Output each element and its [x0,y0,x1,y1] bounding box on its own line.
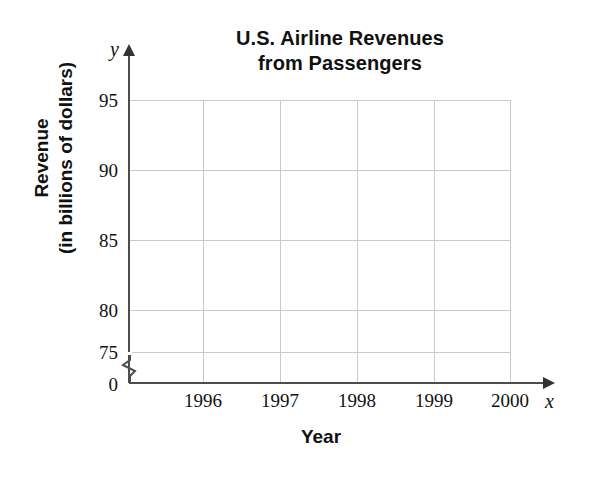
x-tick-label-1999: 1999 [394,390,474,412]
x-tick-label-1998: 1998 [317,390,397,412]
gridline-y-75 [130,352,511,353]
chart-figure: U.S. Airline Revenues from Passengers Re… [0,0,591,480]
x-axis-arrow-icon [543,377,555,389]
x-axis-title: Year [130,426,512,448]
x-tick-label-1996: 1996 [163,390,243,412]
gridline-x-1996 [203,100,204,383]
gridline-x-1998 [357,100,358,383]
chart-title: U.S. Airline Revenues from Passengers [150,26,530,76]
x-tick-label-1997: 1997 [240,390,320,412]
y-axis-arrow-icon [123,44,135,56]
axis-break-icon [119,352,139,384]
gridline-y-90 [130,170,511,171]
x-tick-label-2000: 2000 [470,390,550,412]
y-tick-label-85: 85 [78,230,118,252]
gridline-y-95 [130,100,511,101]
y-tick-label-90: 90 [78,160,118,182]
x-axis-line [129,382,544,384]
gridline-x-2000 [510,100,511,383]
gridline-y-85 [130,240,511,241]
y-tick-label-0: 0 [78,374,118,396]
y-axis-variable-label: y [110,38,119,61]
y-tick-label-75: 75 [78,342,118,364]
y-axis-line [128,54,130,383]
gridline-x-1999 [434,100,435,383]
gridline-y-80 [130,310,511,311]
plot-area [130,100,511,383]
y-tick-label-95: 95 [78,90,118,112]
y-axis-title-line-2: (in billions of dollars) [54,28,78,288]
y-tick-label-80: 80 [78,300,118,322]
gridline-x-1997 [280,100,281,383]
y-axis-title-line-1: Revenue [30,28,54,288]
chart-title-line-2: from Passengers [150,51,530,76]
chart-title-line-1: U.S. Airline Revenues [150,26,530,51]
